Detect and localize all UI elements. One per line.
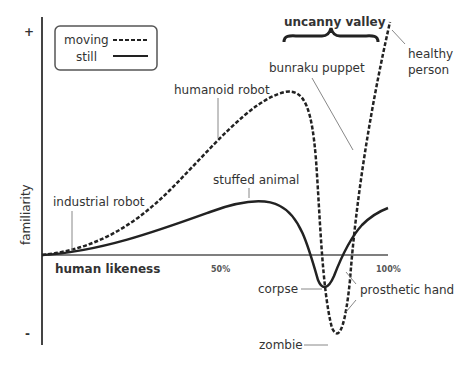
healthy-person-label-line1: healthy bbox=[408, 47, 453, 61]
humanoid-robot-label: humanoid robot bbox=[174, 83, 270, 97]
healthy-person-leader bbox=[392, 30, 405, 44]
industrial-robot-label: industrial robot bbox=[53, 195, 145, 209]
y-axis-label: familiarity bbox=[19, 184, 33, 245]
bunraku-puppet-label: bunraku puppet bbox=[269, 61, 365, 75]
corpse-label: corpse bbox=[258, 282, 298, 296]
bunraku-puppet-leader bbox=[312, 78, 353, 150]
x-axis-label: human likeness bbox=[55, 262, 160, 276]
x-tick-50: 50% bbox=[211, 265, 230, 274]
uncanny-valley-chart: + - familiarity human likeness 50% 100% … bbox=[0, 0, 471, 368]
legend-still-label: still bbox=[76, 50, 97, 64]
x-tick-100: 100% bbox=[376, 265, 401, 274]
y-plus-label: + bbox=[24, 25, 34, 39]
stuffed-animal-label: stuffed animal bbox=[213, 173, 299, 187]
uncanny-valley-label: uncanny valley bbox=[284, 15, 386, 29]
zombie-label: zombie bbox=[259, 338, 303, 352]
legend-moving-label: moving bbox=[64, 33, 109, 47]
y-minus-label: - bbox=[25, 327, 30, 341]
legend: moving still bbox=[55, 26, 157, 70]
uncanny-valley-brace bbox=[284, 28, 378, 42]
prosthetic-hand-label: prosthetic hand bbox=[360, 283, 454, 297]
healthy-person-label-line2: person bbox=[408, 63, 449, 77]
